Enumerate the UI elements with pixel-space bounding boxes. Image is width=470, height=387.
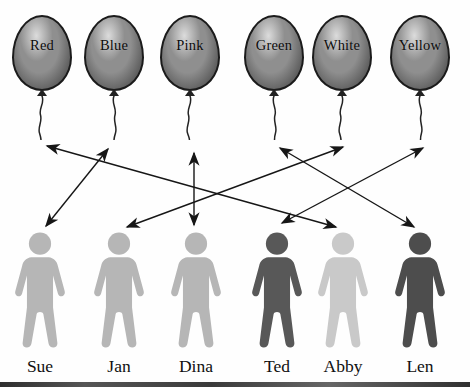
person-jan-figure <box>90 231 148 353</box>
connector-yellow-ted <box>282 148 423 223</box>
person-len: Len <box>391 231 449 377</box>
balloon-yellow: Yellow <box>390 15 450 143</box>
connector-white-jan <box>127 147 343 227</box>
balloon-blue-string <box>108 96 120 140</box>
balloon-white-label: White <box>324 37 360 54</box>
balloon-white-string <box>336 96 348 140</box>
balloon-pink-label: Pink <box>176 37 203 54</box>
person-dina: Dina <box>167 231 225 377</box>
person-ted: Ted <box>248 231 306 377</box>
connector-blue-sue <box>46 149 108 226</box>
person-ted-figure <box>248 231 306 353</box>
balloon-red-string <box>36 96 48 140</box>
person-abby-figure <box>314 231 372 353</box>
person-dina-name: Dina <box>167 356 225 377</box>
balloon-white: White <box>312 15 372 143</box>
balloon-red: Red <box>12 15 72 143</box>
person-abby-name: Abby <box>314 356 372 377</box>
balloon-red-label: Red <box>30 37 54 54</box>
balloon-green-body: Green <box>244 15 304 91</box>
connector-red-abby <box>47 146 336 227</box>
balloon-blue: Blue <box>84 15 144 143</box>
balloon-pink: Pink <box>160 15 220 143</box>
balloon-yellow-label: Yellow <box>399 37 441 54</box>
person-dina-figure <box>167 231 225 353</box>
person-jan-name: Jan <box>90 356 148 377</box>
balloon-yellow-string <box>414 96 426 140</box>
balloon-green-label: Green <box>256 37 292 54</box>
balloon-green: Green <box>244 15 304 143</box>
matching-diagram: Red Blue Pink Green White Yellow <box>0 0 470 387</box>
page-bottom-rule <box>0 382 470 387</box>
balloon-pink-body: Pink <box>160 15 220 91</box>
balloon-green-string <box>268 96 280 140</box>
balloon-pink-string <box>184 96 196 140</box>
person-jan: Jan <box>90 231 148 377</box>
person-sue: Sue <box>11 231 69 377</box>
person-len-figure <box>391 231 449 353</box>
balloon-white-body: White <box>312 15 372 91</box>
balloon-blue-body: Blue <box>84 15 144 91</box>
person-sue-name: Sue <box>11 356 69 377</box>
person-ted-name: Ted <box>248 356 306 377</box>
person-len-name: Len <box>391 356 449 377</box>
balloon-red-body: Red <box>12 15 72 91</box>
person-abby: Abby <box>314 231 372 377</box>
connector-green-len <box>280 148 414 227</box>
balloon-yellow-body: Yellow <box>390 15 450 91</box>
person-sue-figure <box>11 231 69 353</box>
balloon-blue-label: Blue <box>100 37 128 54</box>
